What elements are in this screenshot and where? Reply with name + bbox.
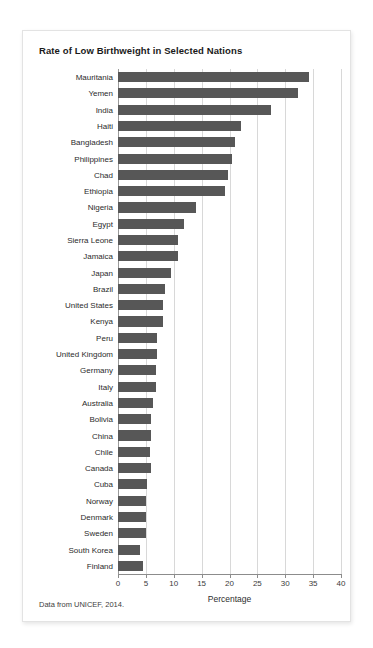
bar bbox=[118, 545, 140, 555]
category-label: Philippines bbox=[74, 154, 113, 163]
bar-row: Mauritania bbox=[118, 72, 341, 82]
source-note: Data from UNICEF, 2014. bbox=[39, 600, 124, 609]
bar bbox=[118, 219, 184, 229]
bar-row: Philippines bbox=[118, 154, 341, 164]
x-tick-label: 40 bbox=[337, 579, 346, 588]
x-tick-label: 35 bbox=[309, 579, 318, 588]
category-label: Egypt bbox=[93, 219, 113, 228]
bar-row: Peru bbox=[118, 333, 341, 343]
x-tick-label: 0 bbox=[116, 579, 120, 588]
category-label: Brazil bbox=[93, 284, 113, 293]
category-label: United States bbox=[65, 301, 113, 310]
category-label: Norway bbox=[86, 496, 113, 505]
category-label: Chad bbox=[94, 170, 113, 179]
category-label: Denmark bbox=[81, 512, 113, 521]
category-label: Ethiopia bbox=[84, 187, 113, 196]
bars-region: MauritaniaYemenIndiaHaitiBangladeshPhili… bbox=[118, 69, 341, 574]
category-label: Nigeria bbox=[88, 203, 113, 212]
bar bbox=[118, 105, 271, 115]
x-tick-label: 20 bbox=[225, 579, 234, 588]
bar bbox=[118, 398, 153, 408]
bar bbox=[118, 512, 146, 522]
x-tick-label: 25 bbox=[253, 579, 262, 588]
bar-row: Sweden bbox=[118, 528, 341, 538]
bar bbox=[118, 463, 151, 473]
category-label: Cuba bbox=[94, 480, 113, 489]
category-label: Jamaica bbox=[83, 252, 113, 261]
tick-mark-30 bbox=[285, 574, 286, 578]
bar-row: Kenya bbox=[118, 316, 341, 326]
bar-row: Italy bbox=[118, 382, 341, 392]
bar bbox=[118, 430, 151, 440]
bar-row: Sierra Leone bbox=[118, 235, 341, 245]
bar-row: Japan bbox=[118, 268, 341, 278]
tick-mark-25 bbox=[257, 574, 258, 578]
category-label: Mauritania bbox=[76, 73, 113, 82]
bar-row: China bbox=[118, 430, 341, 440]
bar-row: Finland bbox=[118, 561, 341, 571]
category-label: Germany bbox=[80, 366, 113, 375]
category-label: South Korea bbox=[69, 545, 113, 554]
tick-mark-40 bbox=[341, 574, 342, 578]
chart-card: Rate of Low Birthweight in Selected Nati… bbox=[22, 30, 351, 622]
x-tick-label: 5 bbox=[144, 579, 148, 588]
tick-mark-35 bbox=[313, 574, 314, 578]
x-tick-label: 10 bbox=[169, 579, 178, 588]
category-label: Bangladesh bbox=[71, 138, 113, 147]
bar bbox=[118, 251, 178, 261]
category-label: Italy bbox=[98, 382, 113, 391]
bar bbox=[118, 137, 235, 147]
bar-row: Brazil bbox=[118, 284, 341, 294]
tick-mark-20 bbox=[230, 574, 231, 578]
bar bbox=[118, 235, 178, 245]
bar-row: United States bbox=[118, 300, 341, 310]
category-label: Sweden bbox=[84, 529, 113, 538]
bar bbox=[118, 72, 309, 82]
tick-mark-15 bbox=[202, 574, 203, 578]
bar bbox=[118, 349, 157, 359]
tick-mark-5 bbox=[146, 574, 147, 578]
bar bbox=[118, 186, 225, 196]
category-label: Haiti bbox=[97, 122, 113, 131]
category-label: Canada bbox=[85, 464, 113, 473]
bar-row: Nigeria bbox=[118, 202, 341, 212]
bar bbox=[118, 365, 156, 375]
bar-row: Cuba bbox=[118, 479, 341, 489]
bar-row: Canada bbox=[118, 463, 341, 473]
x-tick-label: 30 bbox=[281, 579, 290, 588]
bar bbox=[118, 300, 163, 310]
bar-row: Australia bbox=[118, 398, 341, 408]
bar bbox=[118, 447, 150, 457]
category-label: Kenya bbox=[90, 317, 113, 326]
bar-row: Yemen bbox=[118, 88, 341, 98]
bar bbox=[118, 268, 171, 278]
bar-row: Denmark bbox=[118, 512, 341, 522]
gridline-40 bbox=[341, 69, 342, 574]
bar bbox=[118, 88, 298, 98]
bar-row: Egypt bbox=[118, 219, 341, 229]
bar bbox=[118, 496, 146, 506]
x-axis-label: Percentage bbox=[118, 594, 341, 604]
bar bbox=[118, 154, 232, 164]
bar-row: Chad bbox=[118, 170, 341, 180]
bar-row: Germany bbox=[118, 365, 341, 375]
bar-row: Chile bbox=[118, 447, 341, 457]
chart-title: Rate of Low Birthweight in Selected Nati… bbox=[39, 45, 242, 56]
category-label: Bolivia bbox=[89, 415, 113, 424]
bar-row: United Kingdom bbox=[118, 349, 341, 359]
bar-row: Haiti bbox=[118, 121, 341, 131]
category-label: China bbox=[92, 431, 113, 440]
category-label: Peru bbox=[96, 333, 113, 342]
bar-row: Bolivia bbox=[118, 414, 341, 424]
category-label: Chile bbox=[95, 447, 113, 456]
bar-row: Bangladesh bbox=[118, 137, 341, 147]
bar bbox=[118, 121, 241, 131]
bar bbox=[118, 284, 165, 294]
category-label: Australia bbox=[82, 398, 113, 407]
category-label: Japan bbox=[91, 268, 113, 277]
bar bbox=[118, 333, 157, 343]
tick-mark-0 bbox=[118, 574, 119, 578]
bar bbox=[118, 202, 196, 212]
bar bbox=[118, 414, 151, 424]
category-label: Yemen bbox=[88, 89, 113, 98]
